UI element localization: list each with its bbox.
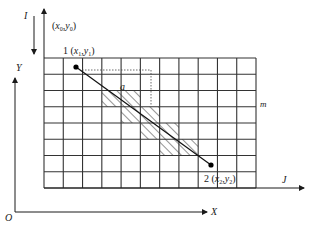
x0-sub: 0 bbox=[60, 26, 63, 32]
point-2-label: 2 (x2,y2) bbox=[204, 174, 236, 185]
Y-axis-label: Y bbox=[16, 63, 22, 73]
x1-sub: 1 bbox=[78, 51, 81, 57]
y1-sub: 1 bbox=[88, 51, 91, 57]
hatched-pixel-cell bbox=[121, 107, 140, 123]
pixel-grid bbox=[44, 58, 256, 188]
point-2-number: 2 bbox=[204, 173, 209, 184]
point-1-number: 1 bbox=[63, 45, 68, 56]
hatched-pixel-cell bbox=[160, 139, 179, 155]
raster-grid-diagram bbox=[0, 0, 310, 226]
origin-pixel-label: (x0,y0) bbox=[52, 21, 76, 32]
m-label: m bbox=[260, 100, 267, 109]
J-axis-label: J bbox=[282, 175, 286, 185]
origin-O-label: O bbox=[5, 213, 12, 223]
line-segment bbox=[76, 67, 211, 165]
point-1 bbox=[73, 64, 78, 69]
point-1-label: 1 (x1,y1) bbox=[63, 46, 95, 57]
I-axis-label: I bbox=[24, 11, 27, 21]
hatched-pixel-cell bbox=[121, 91, 140, 107]
x2-sub: 2 bbox=[219, 179, 222, 185]
y2-sub: 2 bbox=[229, 179, 232, 185]
y0-sub: 0 bbox=[70, 26, 73, 32]
point-2 bbox=[208, 162, 213, 167]
a-label: a bbox=[120, 82, 125, 92]
hatched-pixel-cell bbox=[160, 123, 179, 139]
X-axis-label: X bbox=[211, 207, 217, 217]
